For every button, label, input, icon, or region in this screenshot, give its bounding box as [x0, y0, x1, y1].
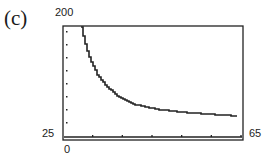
y-axis-ticks — [66, 31, 68, 124]
plot-area — [0, 0, 262, 167]
data-curve — [81, 27, 237, 116]
plot-frame — [63, 26, 243, 140]
